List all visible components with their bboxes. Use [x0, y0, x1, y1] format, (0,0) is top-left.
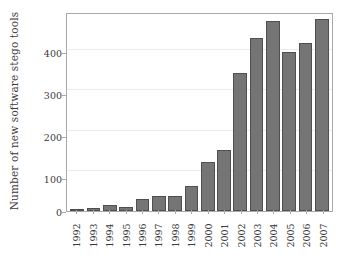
bar[interactable]: [185, 186, 199, 211]
x-label-slot: 2006: [298, 214, 314, 259]
bar-slot: [85, 14, 101, 211]
bar-slot: [265, 14, 281, 211]
x-tick-mark: [93, 210, 94, 214]
x-tick-mark: [208, 210, 209, 214]
x-tick-label: 2006: [301, 223, 312, 247]
x-label-slot: 2000: [200, 214, 216, 259]
bar-slot: [248, 14, 264, 211]
bar[interactable]: [201, 162, 215, 211]
x-label-slot: 1994: [101, 214, 117, 259]
x-tick-label: 1996: [136, 223, 147, 247]
x-label-slot: 1992: [68, 214, 84, 259]
x-tick-mark: [273, 210, 274, 214]
x-tick-label: 1993: [87, 223, 98, 247]
y-axis-title: Number of new software stego tools: [8, 11, 20, 211]
x-label-slot: 2003: [249, 214, 265, 259]
bar-series: [67, 14, 332, 211]
y-tick-label: 200: [22, 133, 62, 143]
bar-chart-figure: Number of new software stego tools 400 3…: [0, 0, 349, 259]
x-tick-mark: [224, 210, 225, 214]
x-tick-label: 2000: [202, 223, 213, 247]
bar[interactable]: [315, 19, 329, 211]
x-tick-mark: [306, 210, 307, 214]
bar-slot: [314, 14, 330, 211]
x-label-slot: 1993: [84, 214, 100, 259]
x-tick-mark: [175, 210, 176, 214]
bar[interactable]: [168, 196, 182, 211]
x-label-slot: 1996: [134, 214, 150, 259]
x-label-slot: 1998: [167, 214, 183, 259]
x-tick-label: 2002: [235, 223, 246, 247]
x-tick-label: 2005: [284, 223, 295, 247]
x-tick-label: 1992: [71, 223, 82, 247]
x-tick-mark: [126, 210, 127, 214]
bar-slot: [167, 14, 183, 211]
bar[interactable]: [266, 21, 280, 211]
bar-slot: [151, 14, 167, 211]
bar[interactable]: [152, 196, 166, 211]
x-axis-tick-labels: 1992199319941995199619971998199920002001…: [66, 214, 333, 259]
x-tick-mark: [191, 210, 192, 214]
x-label-slot: 2002: [232, 214, 248, 259]
bar[interactable]: [282, 52, 296, 211]
x-tick-label: 2003: [252, 223, 263, 247]
bar-slot: [102, 14, 118, 211]
bar[interactable]: [217, 150, 231, 211]
x-tick-mark: [142, 210, 143, 214]
x-tick-mark: [76, 210, 77, 214]
x-tick-label: 1994: [104, 223, 115, 247]
bar-slot: [118, 14, 134, 211]
bar-slot: [200, 14, 216, 211]
x-label-slot: 1999: [183, 214, 199, 259]
x-tick-mark: [109, 210, 110, 214]
bar[interactable]: [233, 73, 247, 211]
bar-slot: [297, 14, 313, 211]
x-tick-mark: [290, 210, 291, 214]
x-label-slot: 2005: [282, 214, 298, 259]
x-tick-label: 1997: [153, 223, 164, 247]
bar-slot: [232, 14, 248, 211]
y-tick-label: 0: [22, 208, 62, 218]
x-tick-mark: [257, 210, 258, 214]
x-label-slot: 2001: [216, 214, 232, 259]
x-label-slot: 1997: [150, 214, 166, 259]
y-tick-mark: [62, 212, 66, 213]
bar-slot: [69, 14, 85, 211]
x-label-slot: 2007: [315, 214, 331, 259]
y-tick-label: 100: [22, 175, 62, 185]
bar[interactable]: [250, 38, 264, 211]
x-tick-label: 1995: [120, 223, 131, 247]
bar-slot: [183, 14, 199, 211]
x-label-slot: 1995: [117, 214, 133, 259]
bar-slot: [134, 14, 150, 211]
plot-area: [66, 13, 333, 212]
bar-slot: [216, 14, 232, 211]
x-tick-label: 1999: [186, 223, 197, 247]
x-tick-label: 1998: [169, 223, 180, 247]
x-tick-mark: [241, 210, 242, 214]
x-tick-label: 2004: [268, 223, 279, 247]
x-tick-mark: [323, 210, 324, 214]
x-label-slot: 2004: [265, 214, 281, 259]
y-tick-label: 400: [22, 49, 62, 59]
bar-slot: [281, 14, 297, 211]
y-tick-label: 300: [22, 91, 62, 101]
x-tick-mark: [158, 210, 159, 214]
x-tick-label: 2007: [317, 223, 328, 247]
bar[interactable]: [299, 43, 313, 211]
x-tick-label: 2001: [219, 223, 230, 247]
